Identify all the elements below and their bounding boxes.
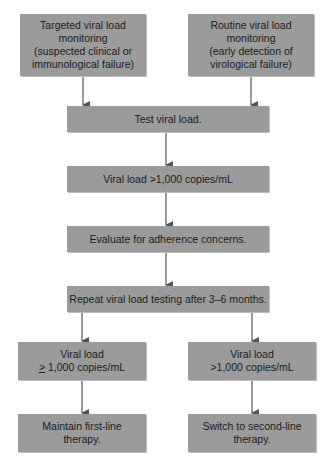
node-targeted-monitoring: Targeted viral load monitoring (suspecte… bbox=[20, 14, 146, 76]
node-routine-monitoring: Routine viral load monitoring (early det… bbox=[188, 14, 314, 76]
node-repeat-testing: Repeat viral load testing after 3–6 mont… bbox=[67, 286, 269, 312]
node-targeted-line-1: Targeted viral load bbox=[32, 19, 134, 32]
node-high-viral-load: Viral load >1,000 copies/mL bbox=[67, 166, 269, 192]
node-switch-line-2: therapy. bbox=[202, 433, 301, 446]
node-maintain-line-1: Maintain first-line bbox=[42, 420, 121, 433]
node-right-result-line-2: >1,000 copies/mL bbox=[210, 361, 293, 374]
node-left-result-line-1: Viral load bbox=[39, 348, 125, 361]
node-targeted-line-3: (suspected clinical or bbox=[32, 45, 134, 58]
node-right-result: Viral load >1,000 copies/mL bbox=[188, 342, 316, 380]
node-routine-line-3: (early detection of bbox=[209, 45, 292, 58]
node-routine-line-1: Routine viral load bbox=[209, 19, 292, 32]
node-routine-line-2: monitoring bbox=[209, 32, 292, 45]
node-left-result-line-2: > 1,000 copies/mL bbox=[39, 361, 125, 374]
node-right-result-line-1: Viral load bbox=[210, 348, 293, 361]
node-evaluate-adherence: Evaluate for adherence concerns. bbox=[67, 226, 269, 252]
node-left-result: Viral load > 1,000 copies/mL bbox=[18, 342, 146, 380]
node-test-label: Test viral load. bbox=[134, 113, 201, 126]
node-repeat-label: Repeat viral load testing after 3–6 mont… bbox=[69, 293, 266, 306]
node-routine-line-4: virological failure) bbox=[209, 58, 292, 71]
node-evaluate-label: Evaluate for adherence concerns. bbox=[89, 233, 246, 246]
node-left-result-threshold: 1,000 copies/mL bbox=[45, 361, 125, 373]
node-high-vl-label: Viral load >1,000 copies/mL bbox=[103, 173, 233, 186]
node-maintain-first-line: Maintain first-line therapy. bbox=[18, 414, 146, 452]
node-targeted-line-4: immunological failure) bbox=[32, 58, 134, 71]
node-maintain-line-2: therapy. bbox=[42, 433, 121, 446]
node-targeted-line-2: monitoring bbox=[32, 32, 134, 45]
node-switch-line-1: Switch to second-line bbox=[202, 420, 301, 433]
node-test-viral-load: Test viral load. bbox=[67, 106, 269, 132]
node-switch-second-line: Switch to second-line therapy. bbox=[188, 414, 316, 452]
